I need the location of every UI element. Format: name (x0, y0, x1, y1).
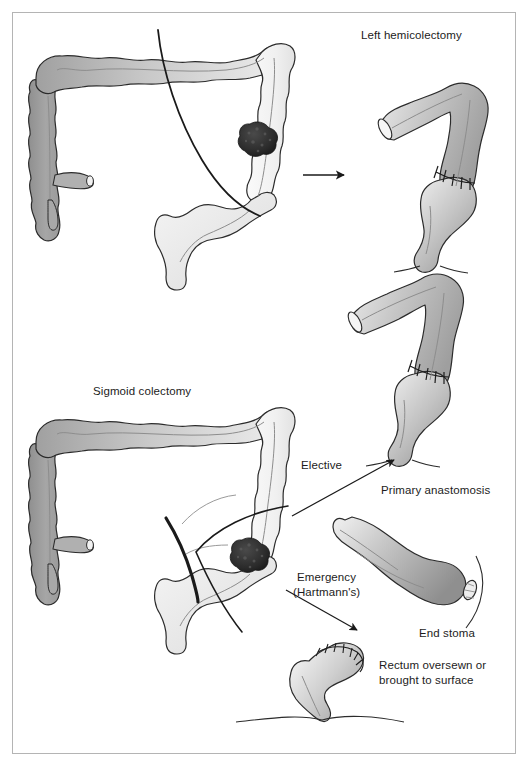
anast-transverse-remnant (351, 274, 463, 390)
specimen-transverse-remnant (381, 83, 489, 196)
figure-root: Left hemicolectomy Sigmoid colectomy Ele… (0, 0, 530, 769)
anast-rectosigmoid (388, 371, 450, 466)
label-rectum-oversewn-line2: brought to surface (379, 673, 474, 688)
label-rectum-oversewn-line1: Rectum oversewn or (379, 658, 486, 673)
label-elective: Elective (301, 458, 342, 473)
resection-line-hemicolectomy[interactable] (158, 30, 260, 216)
panel-lower-left-colon (28, 408, 295, 654)
panel-upper-right-specimen (375, 83, 488, 273)
sigmoid-colon-rectum (155, 192, 277, 290)
label-primary-anastomosis: Primary anastomosis (381, 483, 490, 498)
title-left-hemicolectomy: Left hemicolectomy (361, 28, 462, 43)
specimen-rectosigmoid-remnant (414, 177, 476, 272)
label-emergency: Emergency (297, 570, 356, 585)
rectal-stump (290, 643, 364, 722)
sigmoid-colon-rectum-2 (155, 556, 277, 654)
mesentery-outline (182, 495, 236, 554)
medical-illustration-svg (0, 0, 530, 769)
title-sigmoid-colectomy: Sigmoid colectomy (93, 384, 191, 399)
panel-primary-anastomosis (345, 274, 463, 467)
ileum-stump-lumen-2 (87, 540, 94, 550)
panel-upper-left-colon (28, 30, 295, 290)
label-emergency-hartmanns: (Hartmann's) (293, 585, 360, 600)
label-end-stoma: End stoma (419, 626, 475, 641)
ileum-stump-lumen (87, 176, 94, 186)
